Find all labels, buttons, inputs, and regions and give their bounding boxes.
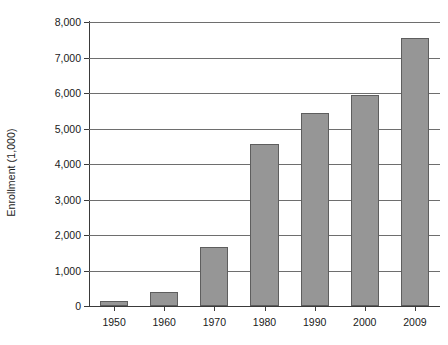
x-tick-label: 1990 xyxy=(303,316,326,328)
y-tick-mark xyxy=(84,306,89,307)
y-tick-label: 0 xyxy=(75,300,81,312)
y-tick-mark xyxy=(84,200,89,201)
bar-1970 xyxy=(200,247,228,306)
y-tick-mark xyxy=(84,271,89,272)
y-tick-label: 2,000 xyxy=(55,229,81,241)
x-tick-label: 1960 xyxy=(153,316,176,328)
plot-area: 01,0002,0003,0004,0005,0006,0007,0008,00… xyxy=(89,22,440,306)
y-tick-label: 6,000 xyxy=(55,87,81,99)
bar-2000 xyxy=(351,95,379,306)
bar-chart: Enrollment (1,000) 01,0002,0003,0004,000… xyxy=(0,0,448,345)
y-tick-mark xyxy=(84,93,89,94)
x-tick-label: 2000 xyxy=(353,316,376,328)
y-tick-mark xyxy=(84,235,89,236)
y-tick-mark xyxy=(84,22,89,23)
y-tick-mark xyxy=(84,58,89,59)
bar-1980 xyxy=(250,144,278,306)
y-tick-mark xyxy=(84,164,89,165)
gridline xyxy=(89,129,440,130)
x-tick-label: 1980 xyxy=(253,316,276,328)
y-tick-label: 5,000 xyxy=(55,123,81,135)
x-tick-mark xyxy=(315,306,316,311)
y-axis-title: Enrollment (1,000) xyxy=(0,0,22,345)
bar-1960 xyxy=(150,292,178,306)
x-tick-label: 1970 xyxy=(203,316,226,328)
x-tick-mark xyxy=(214,306,215,311)
y-tick-label: 1,000 xyxy=(55,265,81,277)
x-tick-mark xyxy=(415,306,416,311)
x-tick-label: 2009 xyxy=(403,316,426,328)
bar-2009 xyxy=(401,38,429,306)
y-tick-mark xyxy=(84,129,89,130)
y-tick-label: 7,000 xyxy=(55,52,81,64)
y-tick-label: 3,000 xyxy=(55,194,81,206)
x-tick-mark xyxy=(114,306,115,311)
y-tick-label: 8,000 xyxy=(55,16,81,28)
x-tick-mark xyxy=(164,306,165,311)
x-tick-mark xyxy=(265,306,266,311)
gridline xyxy=(89,22,440,23)
x-tick-label: 1950 xyxy=(102,316,125,328)
bar-1990 xyxy=(301,113,329,306)
y-tick-label: 4,000 xyxy=(55,158,81,170)
x-tick-mark xyxy=(365,306,366,311)
gridline xyxy=(89,58,440,59)
gridline xyxy=(89,93,440,94)
